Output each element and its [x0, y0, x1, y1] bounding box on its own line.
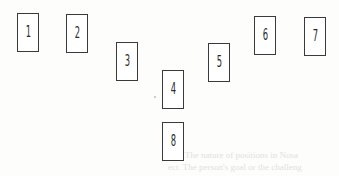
card-position-7: 7 — [304, 17, 326, 56]
card-number: 1 — [25, 25, 30, 40]
card-number: 5 — [216, 55, 221, 70]
card-position-4: 4 — [162, 70, 184, 109]
card-number: 4 — [170, 82, 175, 97]
bleed-line-2: ect. The person's goal or the challeng — [168, 162, 302, 172]
card-position-8: 8 — [162, 122, 184, 161]
card-number: 7 — [312, 29, 317, 44]
card-position-1: 1 — [17, 13, 39, 52]
speck — [154, 96, 156, 98]
card-number: 2 — [74, 26, 79, 41]
card-position-3: 3 — [116, 42, 138, 81]
bleed-line-1: ney. The nature of positions in Nosa — [168, 150, 298, 160]
card-number: 3 — [124, 54, 129, 69]
card-position-5: 5 — [208, 43, 230, 82]
card-position-6: 6 — [254, 16, 276, 55]
card-number: 8 — [170, 134, 175, 149]
card-number: 6 — [262, 28, 267, 43]
card-position-2: 2 — [66, 14, 88, 53]
